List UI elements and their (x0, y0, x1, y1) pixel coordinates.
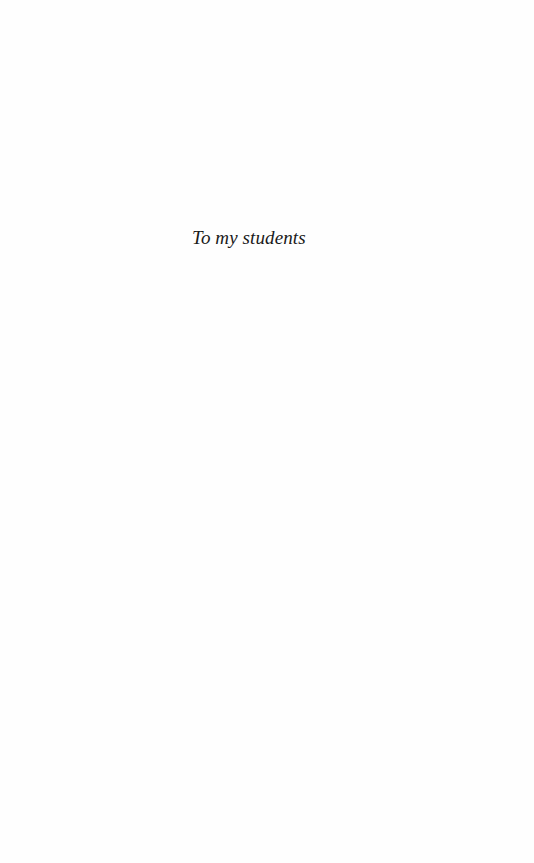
book-page: To my students (0, 0, 534, 863)
dedication-text: To my students (192, 226, 306, 250)
